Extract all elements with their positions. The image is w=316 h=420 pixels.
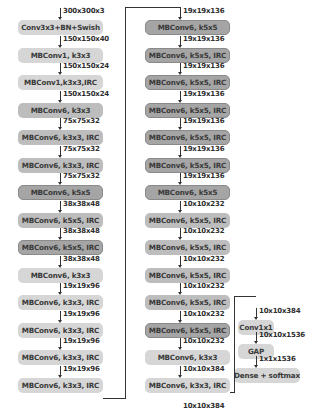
layer-block: MBConv6, k5x5, IRC [145,158,230,173]
layer-block: MBConv6, k5x5, IRC [145,103,230,118]
arrow-icon [180,63,181,73]
tensor-shape-label: 1x1x1536 [259,355,296,363]
tensor-shape-label: 150x150x24 [63,62,109,70]
tensor-shape-label: 19x19x136 [183,172,224,180]
arrow-icon [180,338,181,348]
arrow-icon [60,201,61,211]
layer-block: MBConv6, k5x5, IRC [18,240,103,255]
arrow-icon [256,308,257,318]
tensor-shape-label: 38x38x48 [63,255,100,263]
tensor-shape-label: 10x10x384 [259,307,300,315]
tensor-shape-label: 19x19x136 [183,62,224,70]
connector-line [103,398,125,399]
arrow-icon [60,36,61,46]
arrow-icon [180,173,181,183]
arrow-icon [180,283,181,293]
layer-block: MBConv6, k3x3 [18,268,103,283]
tensor-shape-label: 300x300x3 [63,7,104,15]
tensor-shape-label: 10x10x384 [183,365,224,373]
arrow-icon [60,256,61,266]
arrow-icon [180,366,181,376]
layer-block: MBConv6, k3x3, IRC [18,378,103,393]
tensor-shape-label: 10x10x232 [183,255,224,263]
layer-block: MBConv6, k5x5, IRC [145,75,230,90]
layer-block: MBConv6, k3x3, IRC [18,295,103,310]
arrow-icon [60,228,61,238]
arrow-icon [180,91,181,101]
tensor-shape-label: 19x19x96 [63,337,100,345]
tensor-shape-label: 19x19x96 [63,282,100,290]
arrow-icon [60,63,61,73]
tensor-shape-label: 38x38x48 [63,200,100,208]
connector-line [234,296,256,297]
tensor-shape-label: 75x75x32 [63,145,100,153]
layer-block: MBConv6, k5x5, IRC [145,240,230,255]
tensor-shape-label: 75x75x32 [63,117,100,125]
arrow-icon [180,8,181,18]
arrow-icon [180,228,181,238]
tensor-shape-label: 10x10x232 [183,310,224,318]
layer-block: MBConv6, k5x5 [145,20,230,35]
tensor-shape-label: 10x10x232 [183,282,224,290]
layer-block: MBConv6, k3x3 [18,103,103,118]
arrow-icon [60,311,61,321]
layer-block: MBConv1,k3x3,IRC [18,75,103,90]
tensor-shape-label: 75x75x32 [63,172,100,180]
arrow-icon [60,173,61,183]
arrow-icon [180,311,181,321]
layer-block: MBConv6, k3x3, IRC [18,350,103,365]
tensor-shape-label: 10x10x384 [183,402,224,410]
tensor-shape-label: 19x19x136 [183,35,224,43]
layer-block: MBConv6, k5x5, IRC [145,295,230,310]
tensor-shape-label: 10x10x232 [183,337,224,345]
arrow-icon [180,118,181,128]
tensor-shape-label: 10x10x232 [183,227,224,235]
tensor-shape-label: 10x10x1536 [259,331,305,339]
arrow-icon [60,146,61,156]
arrow-icon [60,283,61,293]
layer-block: MBConv6, k3x3, IRC [18,323,103,338]
layer-block: MBConv6, k3x3, IRC [18,130,103,145]
tensor-shape-label: 19x19x96 [63,365,100,373]
layer-block: Dense + softmax [234,368,300,383]
layer-block: MBConv6, k3x3, IRC [145,378,230,393]
arrow-icon [256,356,257,366]
connector-line [234,296,235,393]
tensor-shape-label: 19x19x136 [183,7,224,15]
layer-block: MBConv6, k5x5, IRC [145,268,230,283]
connector-line [125,7,181,8]
connector-line [125,7,126,399]
tensor-shape-label: 19x19x96 [63,310,100,318]
tensor-shape-label: 19x19x136 [183,117,224,125]
layer-block: MBConv1, k3x3 [18,48,103,63]
layer-block: MBConv6, k3x3, IRC [18,158,103,173]
tensor-shape-label: 19x19x136 [183,90,224,98]
tensor-shape-label: 150x150x40 [63,35,109,43]
tensor-shape-label: 19x19x136 [183,145,224,153]
layer-block: MBConv6, k5x5 [145,185,230,200]
tensor-shape-label: 150x150x24 [63,90,109,98]
arrow-icon [60,118,61,128]
arrow-icon [60,91,61,101]
arrow-icon [256,332,257,342]
arrow-icon [180,201,181,211]
layer-block: MBConv6, k5x5, IRC [145,48,230,63]
arrow-icon [60,366,61,376]
layer-block: MBConv6, k5x5, IRC [145,323,230,338]
arrow-icon [60,8,61,18]
layer-block: MBConv6, k5x5, IRC [18,213,103,228]
layer-block: MBConv6, k5x5 [18,185,103,200]
tensor-shape-label: 10x10x232 [183,200,224,208]
arrow-icon [180,146,181,156]
layer-block: MBConv6, k5x5, IRC [145,130,230,145]
tensor-shape-label: 38x38x48 [63,227,100,235]
arrow-icon [180,256,181,266]
arrow-icon [180,36,181,46]
layer-block: Conv3x3+BN+Swish [18,20,103,35]
layer-block: MBConv6, k5x5, IRC [145,213,230,228]
layer-block: MBConv6, k3x3 [145,350,230,365]
arrow-icon [60,338,61,348]
